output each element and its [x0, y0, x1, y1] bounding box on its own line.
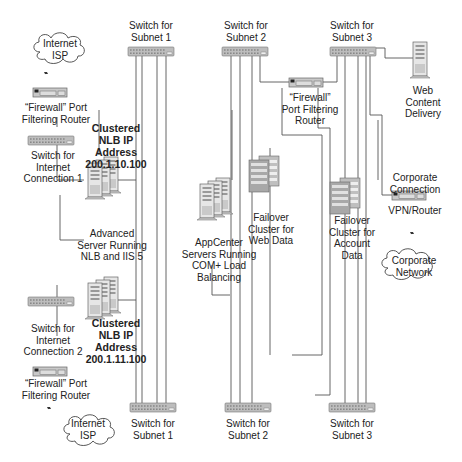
switch-subnet2-top-icon — [222, 47, 268, 56]
switch-subnet3-top-label: Switch for Subnet 3 — [322, 20, 382, 43]
appcenter-servers-icon — [197, 178, 233, 220]
internet-isp-top-label: Internet ISP — [40, 38, 80, 61]
corp-connection-label: Corporate Connection — [382, 172, 448, 195]
switch-conn2-label: Switch for Internet Connection 2 — [18, 323, 88, 358]
web-cluster-label: Failover Cluster for Web Data — [243, 212, 299, 247]
switch-subnet3-bottom-icon — [329, 403, 375, 412]
switch-subnet1-top-label: Switch for Subnet 1 — [121, 20, 181, 43]
switch-conn1-label: Switch for Internet Connection 1 — [18, 150, 88, 185]
account-data-cluster-icon — [330, 178, 360, 214]
switch-subnet2-top-label: Switch for Subnet 2 — [216, 20, 276, 43]
vpn-router-label: VPN/Router — [382, 205, 448, 217]
switch-subnet3-bottom-label: Switch for Subnet 3 — [322, 418, 382, 441]
web-content-server-icon — [410, 42, 430, 78]
internet-isp-bottom-label: Internet ISP — [66, 418, 110, 441]
corp-network-label: Corporate Network — [388, 255, 440, 278]
account-cluster-label: Failover Cluster for Account Data — [324, 215, 380, 261]
firewall-router-bottom-icon — [33, 367, 67, 376]
switch-subnet1-bottom-label: Switch for Subnet 1 — [123, 418, 183, 441]
internal-firewall-label: “Firewall” Port Filtering Router — [278, 92, 342, 127]
switch-internet-conn1-icon — [28, 136, 74, 145]
web-content-label: Web Content Delivery — [398, 85, 448, 120]
nlb-servers-label: Advanced Server Running NLB and IIS 5 — [70, 228, 154, 263]
switch-subnet2-bottom-icon — [225, 403, 271, 412]
nlb-ip-top-label: Clustered NLB IP Address 200.1.10.100 — [85, 122, 147, 170]
lightning-top-icon — [42, 62, 50, 84]
switch-subnet1-top-icon — [128, 47, 174, 56]
nlb-servers-bottom-icon — [85, 277, 121, 319]
switch-subnet1-bottom-icon — [130, 403, 176, 412]
nlb-ip-bottom-label: Clustered NLB IP Address 200.1.11.100 — [85, 317, 147, 365]
firewall-router-top-label: “Firewall” Port Filtering Router — [16, 102, 96, 125]
lightning-corp-icon — [408, 222, 416, 244]
switch-subnet3-top-icon — [330, 47, 376, 56]
firewall-router-top-icon — [33, 88, 67, 97]
switch-internet-conn2-icon — [28, 297, 74, 306]
firewall-router-bottom-label: “Firewall” Port Filtering Router — [16, 378, 96, 401]
internal-firewall-router-icon — [289, 78, 323, 87]
web-data-cluster-icon — [249, 156, 279, 192]
switch-subnet2-bottom-label: Switch for Subnet 2 — [218, 418, 278, 441]
